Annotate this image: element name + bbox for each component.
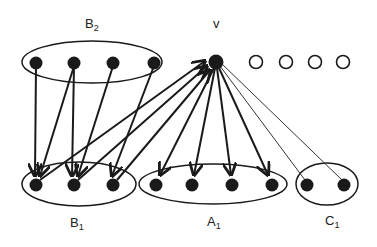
node-c1-1 <box>301 179 314 192</box>
label-c1: C1 <box>325 214 339 230</box>
graph-diagram: v B2 B1 A1 C1 <box>0 0 377 247</box>
node-v <box>209 55 224 70</box>
edges-v-to-c1 <box>220 64 342 180</box>
node-a1-4 <box>266 179 279 192</box>
node-a1-1 <box>150 179 163 192</box>
edges-v-to-a1 <box>160 68 268 175</box>
label-b1-sub: 1 <box>79 222 84 232</box>
edges-b1-to-v <box>40 61 210 180</box>
group-b2-ellipse <box>22 41 162 83</box>
open-nodes <box>250 56 350 69</box>
node-a1-2 <box>186 179 199 192</box>
label-b2: B2 <box>85 17 99 33</box>
node-b1-3 <box>107 179 120 192</box>
open-node-3 <box>309 56 322 69</box>
nodes-b2 <box>30 57 161 70</box>
open-node-2 <box>280 56 293 69</box>
node-b2-3 <box>107 57 120 70</box>
node-b2-4 <box>148 57 161 70</box>
node-c1-2 <box>338 179 351 192</box>
graph-svg <box>0 0 377 247</box>
label-b1-base: B <box>70 215 79 230</box>
node-b2-1 <box>30 57 43 70</box>
nodes-b1 <box>30 179 120 192</box>
label-a1-sub: 1 <box>216 221 221 231</box>
open-node-1 <box>250 56 263 69</box>
label-b2-sub: 2 <box>94 23 99 33</box>
label-a1-base: A <box>207 214 216 229</box>
node-b1-1 <box>30 179 43 192</box>
label-c1-sub: 1 <box>334 220 339 230</box>
label-b1: B1 <box>70 216 84 232</box>
node-a1-3 <box>226 179 239 192</box>
label-v: v <box>213 17 220 30</box>
open-node-4 <box>337 56 350 69</box>
label-a1: A1 <box>207 215 221 231</box>
nodes-a1 <box>150 179 279 192</box>
label-c1-base: C <box>325 213 334 228</box>
node-b1-2 <box>68 179 81 192</box>
nodes-c1 <box>301 179 351 192</box>
label-b2-base: B <box>85 16 94 31</box>
node-b2-2 <box>68 57 81 70</box>
